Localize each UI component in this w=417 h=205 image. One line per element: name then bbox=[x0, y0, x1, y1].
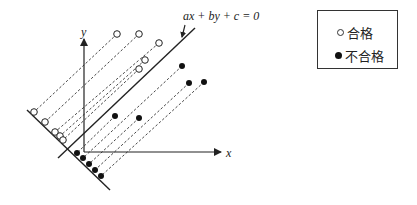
fail-point bbox=[186, 80, 192, 86]
fail-projected-point bbox=[98, 173, 104, 179]
projection-line bbox=[83, 66, 182, 158]
x-axis-label: x bbox=[225, 146, 232, 160]
pass-projected-point bbox=[31, 109, 38, 116]
fail-point bbox=[179, 63, 185, 69]
projection-line bbox=[45, 34, 139, 122]
pass-projection-lines bbox=[34, 34, 159, 140]
fail-point bbox=[201, 79, 207, 85]
decision-boundary-line bbox=[58, 28, 195, 158]
fail-point bbox=[136, 115, 142, 121]
pass-projected-point bbox=[42, 119, 49, 126]
legend-label-fail: 不合格 bbox=[345, 46, 384, 65]
open-circle-icon bbox=[337, 29, 344, 36]
legend-label-pass: 合格 bbox=[347, 23, 373, 42]
legend: 合格 不合格 bbox=[317, 10, 398, 69]
legend-item-fail: 不合格 bbox=[335, 46, 384, 65]
fail-projected-point bbox=[80, 155, 86, 161]
fail-projected-point bbox=[86, 161, 92, 167]
projection-line bbox=[55, 43, 159, 132]
pass-point bbox=[142, 57, 149, 64]
filled-circle-icon bbox=[335, 52, 342, 59]
pass-point bbox=[114, 31, 121, 38]
equation-label: ax + by + c = 0 bbox=[183, 9, 259, 23]
equation-pointer-arrow bbox=[182, 25, 185, 37]
legend-item-pass: 合格 bbox=[337, 23, 373, 42]
projection-line bbox=[101, 82, 204, 176]
fail-projected-point bbox=[74, 150, 80, 156]
projection-line bbox=[95, 83, 189, 170]
fail-projected-point bbox=[92, 167, 98, 173]
pass-point bbox=[136, 31, 143, 38]
pass-point bbox=[156, 40, 163, 47]
fail-point bbox=[112, 113, 118, 119]
pass-projected-point bbox=[60, 137, 67, 144]
projection-line bbox=[34, 34, 117, 112]
pass-point bbox=[136, 66, 143, 73]
projection-line bbox=[89, 118, 139, 164]
projection-axis-line bbox=[27, 110, 110, 190]
y-axis-label: y bbox=[80, 25, 87, 39]
